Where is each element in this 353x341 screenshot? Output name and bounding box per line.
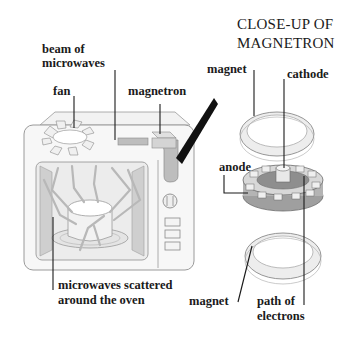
label-beam-of-microwaves-1: beam of	[42, 42, 85, 56]
closeup-title-line1: CLOSE-UP OF	[237, 15, 333, 34]
label-path-of-electrons-1: path of	[257, 294, 295, 308]
magnetron-closeup	[240, 112, 323, 284]
label-magnetron: magnetron	[128, 84, 186, 98]
label-beam-of-microwaves-2: microwaves	[42, 56, 105, 70]
label-anode: anode	[219, 160, 251, 174]
label-cathode: cathode	[287, 67, 329, 81]
label-scattered-1: microwaves scattered	[58, 278, 172, 292]
label-magnet-top: magnet	[207, 62, 247, 76]
label-path-of-electrons-2: electrons	[257, 309, 305, 323]
label-fan: fan	[53, 84, 70, 98]
closeup-title-line2: MAGNETRON	[237, 34, 335, 53]
label-scattered-2: around the oven	[58, 293, 145, 307]
label-magnet-bottom: magnet	[189, 294, 229, 308]
